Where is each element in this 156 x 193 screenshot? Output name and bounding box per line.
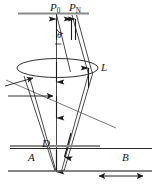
lens-ellipse xyxy=(17,59,98,78)
label-theta: θ xyxy=(57,31,61,40)
label-pn: PN xyxy=(69,2,81,15)
label-pn-subscript: N xyxy=(76,7,81,15)
aperture-plane xyxy=(10,146,152,149)
optical-ray-diagram: P0 PN θ L D A B xyxy=(0,0,156,193)
ray-p0-cone-edge xyxy=(57,15,71,73)
label-aperture: D xyxy=(42,138,50,149)
lens-outline xyxy=(17,59,98,78)
ray-pn-edge-right xyxy=(77,15,93,74)
label-lens: L xyxy=(101,62,107,73)
ray-bundle-pn xyxy=(62,15,93,171)
label-region-b: B xyxy=(122,152,129,163)
ray-pn-converge-right xyxy=(64,74,93,171)
oblique-ray-left-arrow xyxy=(5,78,33,86)
ray-pn-converge-left xyxy=(62,74,89,171)
oblique-ray-long xyxy=(6,80,116,128)
oblique-guide-rays xyxy=(5,76,116,171)
label-region-a: A xyxy=(28,152,35,163)
label-p0-subscript: 0 xyxy=(57,7,61,15)
label-p0: P0 xyxy=(50,2,60,15)
figure-canvas xyxy=(0,0,156,193)
ray-pn-edge-left xyxy=(72,15,89,74)
